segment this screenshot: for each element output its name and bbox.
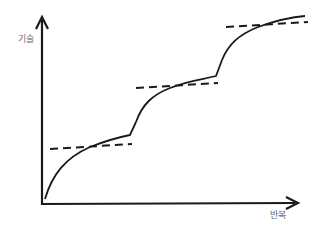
plateau-line-stage-2 <box>136 83 218 88</box>
y-axis-label: 기술 <box>18 32 34 45</box>
y-axis <box>36 17 48 205</box>
x-axis-label: 반복 <box>270 208 286 221</box>
curve-stage-2 <box>136 60 222 122</box>
plateau-line-stage-3 <box>226 22 308 27</box>
skill-curve-diagram <box>0 0 322 228</box>
plateau-line-stage-1 <box>50 144 132 149</box>
x-axis <box>41 197 298 209</box>
curve-stage-1 <box>45 122 136 199</box>
